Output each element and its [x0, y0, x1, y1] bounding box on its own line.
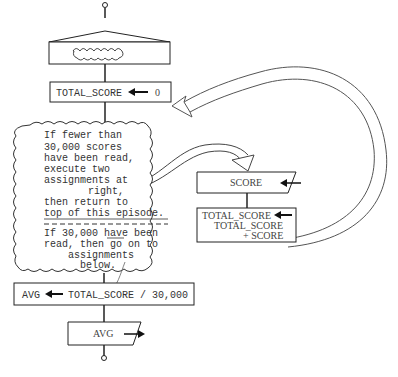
end-terminal [102, 356, 107, 361]
svg-text:0: 0 [155, 87, 160, 98]
accumulate-box: TOTAL_SCORE TOTAL_SCORE + SCORE [197, 208, 296, 242]
svg-text:+ SCORE: + SCORE [243, 230, 283, 241]
avg-output-box: AVG [68, 322, 145, 361]
init-assignment-box: TOTAL_SCORE 0 [50, 82, 171, 122]
loop-note-cloud: If fewer than 30,000 scores have been re… [14, 122, 169, 296]
start-terminal [103, 3, 108, 19]
svg-text:TOTAL_SCORE / 30,000: TOTAL_SCORE / 30,000 [68, 290, 188, 301]
svg-text:SCORE: SCORE [230, 177, 262, 188]
svg-text:TOTAL_SCORE: TOTAL_SCORE [56, 88, 122, 99]
score-input-box: SCORE [197, 172, 301, 208]
avg-assignment-box: AVG TOTAL_SCORE / 30,000 [14, 283, 194, 322]
flowchart-diagram: TOTAL_SCORE 0 If fewer than 30,000 score… [0, 0, 398, 377]
svg-text:AVG: AVG [93, 328, 113, 339]
episode-squiggle-icon [73, 49, 123, 61]
episode-header [49, 31, 170, 82]
svg-text:AVG: AVG [22, 290, 40, 301]
